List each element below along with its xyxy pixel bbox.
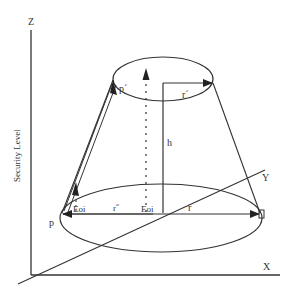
security-cone-diagram: Z X Y Security Level p p´ h r´ r r˝ Eoi …: [0, 0, 296, 294]
eoi-left-label: Eoi: [73, 204, 86, 214]
cone-left-side: [62, 80, 113, 213]
dotted-arrowhead-icon: [143, 68, 150, 80]
z-axis-label: Z: [28, 16, 34, 27]
cone-right-side: [213, 83, 260, 213]
top-radius-label: r´: [182, 89, 189, 100]
inner-radius-label: r˝: [113, 203, 120, 213]
y-axis-label: Y: [262, 172, 269, 183]
height-label: h: [167, 137, 172, 148]
p-to-p-prime-arrow: [64, 80, 117, 212]
x-axis-label: X: [263, 261, 271, 272]
axes: [18, 30, 280, 284]
point-p-label: p: [49, 217, 54, 228]
eoi-center-label: Eoi: [141, 204, 154, 214]
y-axis: [18, 170, 265, 284]
point-p-prime-label: p´: [119, 83, 127, 94]
security-level-label: Security Level: [12, 129, 22, 182]
